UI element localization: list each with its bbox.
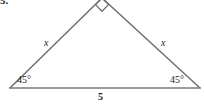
angle-label-left: 45° — [17, 75, 31, 85]
side-label-base: 5 — [98, 92, 103, 102]
problem-number: 5. — [0, 0, 8, 6]
angle-label-right: 45° — [170, 75, 184, 85]
triangle-right-leg — [102, 0, 200, 88]
side-label-right-leg: x — [161, 38, 165, 48]
side-label-left-leg: x — [44, 38, 48, 48]
triangle-drawing — [0, 0, 204, 105]
triangle-diagram: 5. 45° 45° x x 5 — [0, 0, 204, 105]
